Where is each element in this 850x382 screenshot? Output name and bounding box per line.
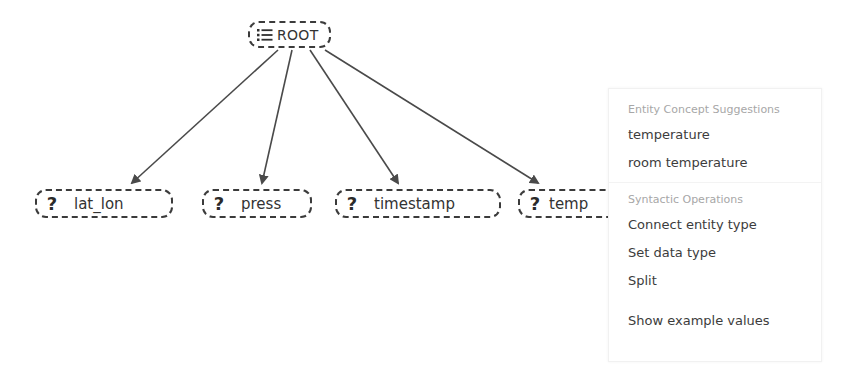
node-label: lat_lon	[74, 195, 124, 213]
node-label: press	[241, 195, 281, 213]
menu-item-room-temperature[interactable]: room temperature	[609, 149, 821, 177]
edge-root-temp	[325, 50, 538, 183]
section-header-entity-concept-suggestions: Entity Concept Suggestions	[609, 99, 821, 121]
node-label: timestamp	[374, 195, 455, 213]
edge-root-timestamp	[310, 50, 398, 183]
node-press[interactable]: ? press	[202, 189, 312, 218]
node-lat-lon[interactable]: ? lat_lon	[35, 189, 173, 218]
schema-graph-canvas: ROOT ? lat_lon ? press ? timestamp ? tem…	[0, 0, 850, 382]
menu-divider	[609, 182, 821, 183]
menu-item-set-data-type[interactable]: Set data type	[609, 239, 821, 267]
question-mark-icon: ?	[44, 193, 60, 214]
menu-item-temperature[interactable]: temperature	[609, 121, 821, 149]
node-label: temp	[549, 195, 588, 213]
question-mark-icon: ?	[527, 193, 543, 214]
root-node[interactable]: ROOT	[248, 21, 331, 48]
menu-item-show-example-values[interactable]: Show example values	[609, 307, 821, 335]
list-icon	[257, 28, 273, 42]
node-context-menu: Entity Concept Suggestions temperature r…	[608, 88, 822, 362]
menu-item-connect-entity-type[interactable]: Connect entity type	[609, 211, 821, 239]
edge-root-press	[262, 50, 292, 183]
section-header-syntactic-operations: Syntactic Operations	[609, 189, 821, 211]
root-label: ROOT	[277, 27, 319, 43]
menu-spacer	[609, 295, 821, 307]
menu-item-split[interactable]: Split	[609, 267, 821, 295]
edge-root-lat-lon	[132, 50, 278, 183]
node-timestamp[interactable]: ? timestamp	[335, 189, 501, 218]
question-mark-icon: ?	[344, 193, 360, 214]
question-mark-icon: ?	[211, 193, 227, 214]
